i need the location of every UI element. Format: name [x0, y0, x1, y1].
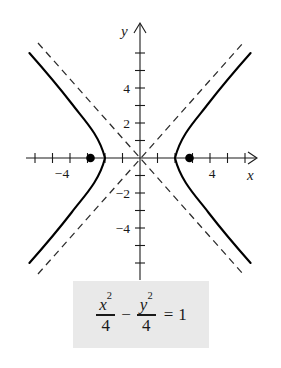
- focus-right-dot: [185, 154, 194, 163]
- exponent-x-2: 2: [107, 290, 112, 301]
- fraction-numerator-x: x2: [96, 295, 115, 314]
- minus-operator: −: [121, 306, 131, 323]
- fraction-numerator-y: y2: [137, 295, 156, 314]
- hyperbola-figure: y x −4 4 4 2 −2 −4 x2 4 − y2 4 = 1: [0, 0, 281, 368]
- x-axis-label: x: [246, 167, 254, 183]
- equation-right-side: 1: [178, 306, 187, 323]
- equation-expression: x2 4 − y2 4 = 1: [95, 295, 187, 333]
- equation-caption-box: x2 4 − y2 4 = 1: [73, 281, 209, 348]
- focus-left-dot: [86, 154, 95, 163]
- fraction-denominator-right: 4: [139, 316, 154, 334]
- y-tick-label-minus4: −4: [116, 221, 131, 236]
- x-tick-label-4: 4: [209, 166, 216, 181]
- y-tick-label-2: 2: [123, 116, 130, 131]
- variable-x: x: [99, 295, 107, 314]
- fraction-x-squared-over-4: x2 4: [96, 295, 115, 333]
- axes-group: [26, 23, 257, 280]
- fraction-y-squared-over-4: y2 4: [137, 295, 156, 333]
- y-tick-label-4: 4: [123, 81, 130, 96]
- fraction-denominator-left: 4: [98, 316, 113, 334]
- equals-operator: =: [164, 306, 174, 323]
- exponent-y-2: 2: [147, 290, 152, 301]
- y-axis-label: y: [119, 23, 128, 39]
- x-tick-label-minus4: −4: [55, 166, 70, 181]
- y-tick-label-minus2: −2: [116, 186, 130, 201]
